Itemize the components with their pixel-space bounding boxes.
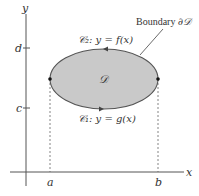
y-axis-label: y bbox=[21, 2, 29, 15]
region-diagram: y x d c a b 𝒟 𝒞₂: y = f(x) 𝒞₁: y = g(x) … bbox=[0, 0, 199, 196]
boundary-label-symbol: ∂𝒟 bbox=[178, 16, 193, 27]
curve-label-c2: 𝒞₂: y = f(x) bbox=[78, 34, 133, 45]
tick-label-b: b bbox=[155, 176, 162, 189]
curve-label-c1: 𝒞₁: y = g(x) bbox=[78, 113, 136, 124]
endpoint-right bbox=[156, 77, 160, 81]
boundary-label-prefix: Boundary bbox=[136, 16, 178, 27]
tick-label-c: c bbox=[16, 102, 22, 115]
tick-label-d: d bbox=[15, 42, 22, 55]
endpoint-left bbox=[48, 77, 52, 81]
boundary-leader bbox=[140, 29, 163, 55]
tick-label-a: a bbox=[47, 176, 54, 189]
x-axis-label: x bbox=[186, 166, 193, 179]
boundary-label: Boundary ∂𝒟 bbox=[136, 16, 193, 27]
